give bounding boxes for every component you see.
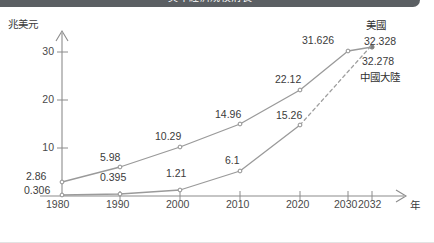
- chart-figure: 美中經濟規模消長: [0, 0, 434, 243]
- y-tick-20: 20: [32, 94, 54, 105]
- y-tick-10: 10: [32, 142, 54, 153]
- x-tick-1980: 1980: [46, 199, 69, 210]
- point-label-china-2020: 15.26: [276, 110, 302, 121]
- endpoint-value-us: 32.328: [364, 36, 396, 47]
- point-label-us-2010: 14.96: [215, 109, 241, 120]
- x-tick-2010: 2010: [226, 199, 249, 210]
- x-tick-2000: 2000: [166, 199, 189, 210]
- x-tick-1990: 1990: [106, 199, 129, 210]
- point-label-china-1980: 0.306: [24, 185, 50, 196]
- point-label-us-2020: 22.12: [275, 74, 301, 85]
- y-tick-30: 30: [32, 46, 54, 57]
- y-axis-unit-label: 兆美元: [8, 19, 38, 30]
- y-axis: [56, 31, 68, 196]
- x-tick-2032: 2032: [358, 199, 381, 210]
- series-label-china: 中國大陸: [360, 72, 400, 83]
- x-tick-2030: 2030: [334, 199, 357, 210]
- point-label-china-2010: 6.1: [225, 155, 240, 166]
- x-axis-unit-label: 年: [410, 200, 420, 211]
- x-tick-2020: 2020: [286, 199, 309, 210]
- point-label-us-1980: 2.86: [26, 171, 46, 182]
- point-label-us-1990: 5.98: [100, 152, 120, 163]
- point-label-china-1990: 0.395: [100, 172, 126, 183]
- point-label-us-2000: 10.29: [155, 131, 181, 142]
- series-label-us: 美國: [366, 20, 386, 31]
- point-label-us-2030: 31.626: [302, 35, 334, 46]
- endpoint-value-china: 32.278: [362, 56, 394, 67]
- point-label-china-2000: 1.21: [166, 168, 186, 179]
